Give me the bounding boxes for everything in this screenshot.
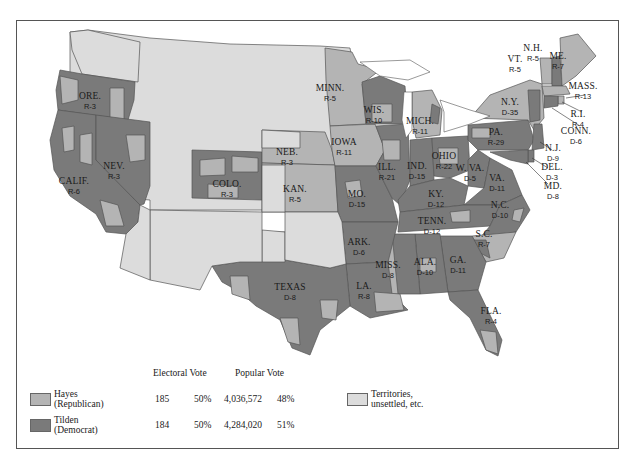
popular-pct: 51% bbox=[277, 420, 294, 430]
state-label: ARK.D-6 bbox=[347, 238, 370, 257]
state-label: VT.R-5 bbox=[508, 55, 523, 74]
state-label: GA.D-11 bbox=[450, 256, 467, 275]
state-label: MO.D-15 bbox=[348, 190, 366, 209]
state-label: S.C.R-7 bbox=[475, 230, 492, 249]
state-label: MINN.R-5 bbox=[316, 84, 345, 103]
territories-label: Territories,unsettled, etc. bbox=[371, 389, 424, 409]
state-label: MICH.R-11 bbox=[406, 117, 434, 136]
state-massachusetts bbox=[542, 86, 570, 96]
territories-swatch bbox=[347, 393, 368, 406]
state-new-jersey bbox=[532, 124, 544, 150]
state-label: WIS.R-10 bbox=[364, 106, 385, 125]
state-label: NEV.R-3 bbox=[103, 162, 124, 181]
electoral-votes: 185 bbox=[155, 394, 169, 404]
popular-votes: 4,284,020 bbox=[224, 420, 262, 430]
state-label: PA.R-29 bbox=[488, 128, 504, 147]
state-label: IOWAR-11 bbox=[331, 138, 357, 157]
state-label: W. VA.D-5 bbox=[456, 164, 485, 183]
state-label: MD.D-8 bbox=[544, 182, 562, 201]
state-label: ILL.R-21 bbox=[378, 163, 396, 182]
state-label: ALA.D-10 bbox=[414, 258, 437, 277]
electoral-pct: 50% bbox=[194, 394, 211, 404]
state-label: TENN.D-12 bbox=[418, 217, 447, 236]
state-label: KY.D-12 bbox=[428, 190, 444, 209]
republican-swatch bbox=[30, 393, 51, 406]
state-label: ME.R-7 bbox=[549, 52, 566, 71]
state-label: LA.R-8 bbox=[356, 282, 372, 301]
state-label: FLA.R-4 bbox=[480, 307, 501, 326]
popular-votes: 4,036,572 bbox=[224, 394, 262, 404]
democrat-swatch bbox=[30, 419, 51, 432]
popular-pct: 48% bbox=[277, 394, 294, 404]
state-label: MASS.R-13 bbox=[568, 82, 597, 101]
state-label: N.C.D-10 bbox=[491, 201, 510, 220]
state-label: DEL.D-3 bbox=[541, 163, 563, 182]
state-label: COLO.R-3 bbox=[212, 180, 241, 199]
state-connecticut bbox=[544, 96, 558, 108]
state-label: N.Y.D-35 bbox=[501, 98, 519, 117]
legend-header-popular: Popular Vote bbox=[235, 368, 284, 378]
state-label: NEB.R-3 bbox=[276, 148, 298, 167]
state-label: KAN.R-5 bbox=[283, 185, 307, 204]
candidate-label: Tilden(Democrat) bbox=[54, 415, 98, 435]
state-label: VA.D-11 bbox=[489, 174, 505, 193]
state-label: N.H.R-5 bbox=[523, 44, 542, 63]
state-label: CALIF.R-6 bbox=[59, 177, 89, 196]
state-label: IND.D-15 bbox=[407, 162, 427, 181]
electoral-votes: 184 bbox=[155, 420, 169, 430]
state-label: OHIOR-22 bbox=[432, 152, 457, 171]
state-delaware bbox=[528, 150, 534, 162]
state-label: ORE.R-3 bbox=[79, 92, 101, 111]
candidate-label: Hayes(Republican) bbox=[54, 389, 104, 409]
electoral-pct: 50% bbox=[194, 420, 211, 430]
state-label: MISS.D-8 bbox=[375, 261, 401, 280]
state-label: TEXASD-8 bbox=[274, 283, 306, 302]
state-label: CONN.D-6 bbox=[561, 127, 591, 146]
legend-header-electoral: Electoral Vote bbox=[153, 368, 207, 378]
state-label: N.J.D-9 bbox=[545, 144, 561, 163]
